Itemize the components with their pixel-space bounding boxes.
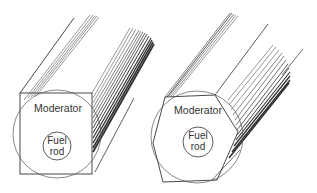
moderator-label-hexagon: Moderator <box>170 104 226 116</box>
right-face-shading <box>228 45 290 158</box>
fuel-label-line2: rod <box>43 146 71 157</box>
fuel-rod-label-hexagon: Fuel rod <box>184 130 212 152</box>
diagram-canvas: Moderator Fuel rod Moderator Fuel rod <box>0 0 317 193</box>
fuel-rod-label-square: Fuel rod <box>43 135 71 157</box>
moderator-label-square: Moderator <box>32 102 84 114</box>
fuel-label-line2: rod <box>184 141 212 152</box>
square-prism <box>13 15 154 178</box>
fuel-label-line1: Fuel <box>43 135 71 146</box>
hexagonal-prism <box>151 13 303 183</box>
diagram-drawing <box>0 0 317 193</box>
fuel-label-line1: Fuel <box>184 130 212 141</box>
